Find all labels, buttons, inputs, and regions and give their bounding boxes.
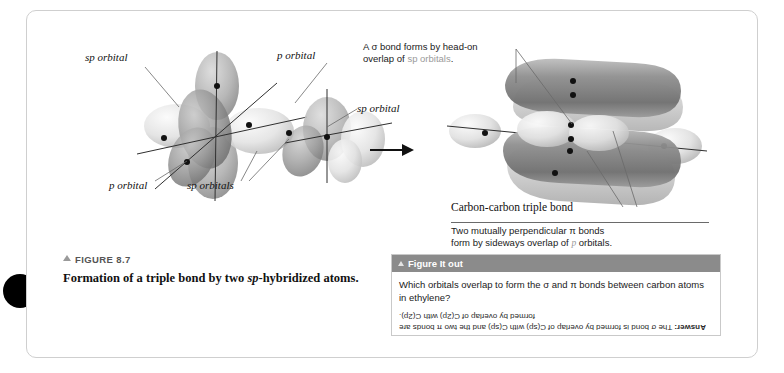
label-sp-orbital-mid-right: sp orbital [357,102,399,114]
figure-caption-text: Formation of a triple bond by two sp-hyb… [63,270,363,286]
figure-number-header: FIGURE 8.7 [63,254,363,265]
figure-it-out-header-label: Figure It out [408,258,463,269]
figure-number-label: FIGURE 8.7 [75,254,131,265]
figure-it-out-answer: Answer: The σ bond is formed by overlap … [392,306,720,335]
caption-italic: sp [247,271,258,285]
figure-sheet: sp orbital p orbital sp orbital p orbita… [26,10,758,358]
figure-it-out-box: Figure It out Which orbitals overlap to … [391,254,721,336]
callout-sigma-dim: sp orbitals [407,53,450,64]
caption-part3: atoms. [323,271,358,285]
label-p-orbital-bottom: p orbital [109,179,147,191]
figure-it-out-header: Figure It out [392,255,720,272]
callout-sigma-bond: A σ bond forms by head-on overlap of sp … [363,41,478,65]
callout-sigma-line2: overlap of sp orbitals. [363,53,478,65]
answer-text: The σ bond is formed by overlap of C(sp)… [399,312,674,332]
orbital-diagram: sp orbital p orbital sp orbital p orbita… [27,11,759,243]
triangle-up-icon-small [398,261,404,266]
transformation-arrow-icon [370,144,416,156]
callout-pi-prefix: form by sideways overlap of [451,237,571,248]
figure-caption: FIGURE 8.7 Formation of a triple bond by… [63,254,363,286]
page-canvas: sp orbital p orbital sp orbital p orbita… [0,0,784,373]
callout-pi-line2: form by sideways overlap of p orbitals. [451,237,612,249]
caption-part1: Formation of a triple bond by two [63,271,247,285]
callout-pi-rule [451,222,709,223]
callout-pi-bonds: Two mutually perpendicular π bonds form … [451,225,612,249]
callout-pi-suffix: orbitals. [576,237,612,248]
triangle-up-icon [63,255,71,261]
label-sp-orbitals-bottom: sp orbitals [187,179,234,191]
answer-label: Answer: [674,323,706,332]
callout-sigma-prefix: overlap of [363,53,407,64]
label-carbon-carbon-triple-bond: Carbon-carbon triple bond [451,201,573,213]
caption-part2: -hybridized [259,271,321,285]
callout-pi-line1: Two mutually perpendicular π bonds [451,225,612,237]
figure-it-out-question: Which orbitals overlap to form the σ and… [392,272,720,306]
callout-sigma-line1: A σ bond forms by head-on [363,41,478,53]
label-p-orbital-top-right: p orbital [277,49,315,61]
label-sp-orbital-top-left: sp orbital [85,51,127,63]
callout-sigma-suffix: . [451,53,454,64]
